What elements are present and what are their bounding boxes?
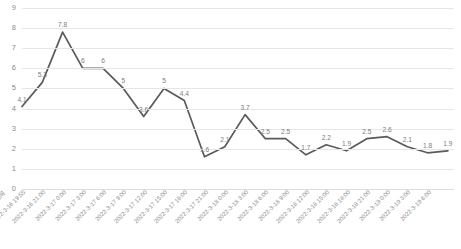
gridline	[22, 8, 454, 9]
y-axis-tick-label: 9	[12, 4, 16, 12]
data-point-label: 7.8	[58, 23, 67, 30]
y-axis-tick-label: 3	[12, 125, 16, 133]
data-point-label: 1.6	[200, 147, 209, 154]
gridline	[22, 169, 454, 170]
data-point-label: 2.5	[261, 129, 270, 136]
chart-caption	[0, 239, 461, 249]
data-point-label: 6	[81, 59, 85, 66]
data-point-label: 1.9	[443, 141, 452, 148]
series-polyline	[22, 32, 448, 157]
data-point-label: 3.7	[241, 105, 250, 112]
data-point-label: 1.8	[423, 143, 432, 150]
gridline	[22, 28, 454, 29]
gridline	[22, 68, 454, 69]
data-point-label: 2.5	[362, 129, 371, 136]
data-point-label: 6	[101, 59, 105, 66]
y-axis-tick-label: 6	[12, 65, 16, 73]
gridline	[22, 149, 454, 150]
data-point-label: 4.4	[180, 91, 189, 98]
y-axis-tick-label: 4	[12, 105, 16, 113]
data-point-label: 2.6	[382, 127, 391, 134]
y-axis-tick-label: 2	[12, 145, 16, 153]
line-chart: 9876543210 4.15.37.86653.654.41.62.13.72…	[0, 0, 461, 249]
y-axis-tick-label: 8	[12, 24, 16, 32]
plot-area: 4.15.37.86653.654.41.62.13.72.52.51.72.2…	[22, 8, 454, 189]
data-point-label: 2.5	[281, 129, 290, 136]
y-axis-tick-label: 0	[12, 185, 16, 193]
data-point-label: 1.9	[342, 141, 351, 148]
data-point-label: 5	[162, 79, 166, 86]
data-point-label: 2.1	[403, 137, 412, 144]
series-line	[22, 8, 454, 189]
gridline	[22, 88, 454, 89]
y-axis-tick-label: 7	[12, 44, 16, 52]
data-point-label: 5	[122, 79, 126, 86]
data-point-label: 5.3	[38, 73, 47, 80]
gridline	[22, 109, 454, 110]
data-point-label: 2.1	[220, 137, 229, 144]
gridline	[22, 48, 454, 49]
data-point-label: 4.1	[17, 97, 26, 104]
data-point-label: 3.6	[139, 107, 148, 114]
data-point-label: 1.7	[301, 145, 310, 152]
y-axis-tick-label: 1	[12, 165, 16, 173]
data-point-label: 2.2	[322, 135, 331, 142]
y-axis-tick-label: 5	[12, 85, 16, 93]
